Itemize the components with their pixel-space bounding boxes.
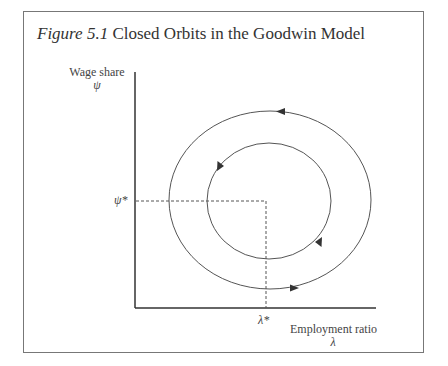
outer-top-arrow-icon xyxy=(276,108,285,115)
inner-orbit xyxy=(207,143,331,259)
y-axis-symbol: ψ xyxy=(64,79,130,92)
psi-star-label: ψ* xyxy=(114,193,127,208)
orbit-diagram xyxy=(0,0,448,366)
x-axis-symbol: λ xyxy=(290,336,376,349)
x-axis-label: Employment ratio λ xyxy=(290,323,376,349)
lambda-star-label: λ* xyxy=(258,313,269,328)
y-axis-label: Wage share ψ xyxy=(64,66,130,92)
outer-orbit xyxy=(169,111,371,289)
